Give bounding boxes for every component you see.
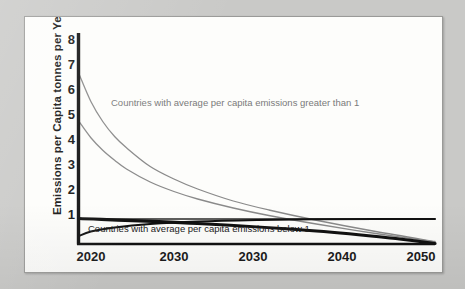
x-tick-label: 2020 [61, 249, 121, 264]
x-tick-label: 2040 [312, 249, 372, 264]
x-tick-label: 2050 [391, 249, 443, 264]
lower-annotation: Countries with average per capita emissi… [88, 223, 310, 234]
chart-panel: Emissions per Capita tonnes per Year 8 7… [24, 16, 443, 273]
x-tick-label: 2030 [223, 249, 283, 264]
upper-annotation: Countries with average per capita emissi… [111, 97, 359, 108]
x-tick-label: 2030 [144, 249, 204, 264]
